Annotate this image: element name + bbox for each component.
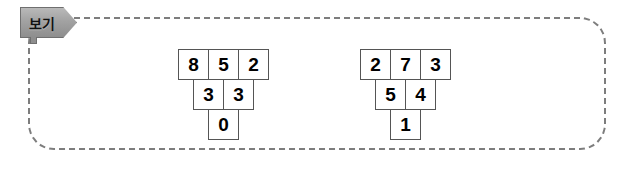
pyramid-row: 5 4 <box>375 79 436 110</box>
pyramid-row: 0 <box>208 109 239 140</box>
number-cell: 7 <box>390 49 421 80</box>
example-tag: 보기 <box>20 7 77 38</box>
number-cell: 1 <box>390 109 421 140</box>
pyramid-row: 2 7 3 <box>360 49 451 80</box>
pyramid-row: 3 3 <box>193 79 254 110</box>
example-tag-label: 보기 <box>20 7 64 38</box>
number-pyramid-right: 2 7 3 5 4 1 <box>360 50 451 140</box>
number-cell: 3 <box>193 79 224 110</box>
number-cell: 8 <box>178 49 209 80</box>
number-cell: 5 <box>375 79 406 110</box>
number-pyramid-left: 8 5 2 3 3 0 <box>178 50 269 140</box>
number-cell: 4 <box>405 79 436 110</box>
number-cell: 3 <box>420 49 451 80</box>
number-cell: 2 <box>238 49 269 80</box>
number-cell: 0 <box>208 109 239 140</box>
pyramid-row: 8 5 2 <box>178 49 269 80</box>
number-cell: 2 <box>360 49 391 80</box>
pyramid-row: 1 <box>390 109 421 140</box>
example-container <box>28 17 606 150</box>
number-cell: 5 <box>208 49 239 80</box>
number-cell: 3 <box>223 79 254 110</box>
example-tag-tail <box>30 37 37 44</box>
